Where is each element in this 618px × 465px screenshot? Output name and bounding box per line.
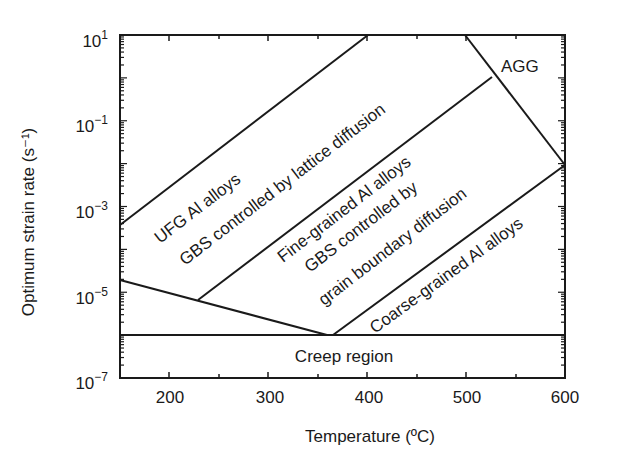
- ufg-upper-line: [120, 35, 368, 225]
- y-tick-label: 101: [82, 28, 108, 51]
- x-tick-label: 200: [156, 388, 184, 407]
- y-tick-labels: 101 10−1 10−3 10−5 10−7: [75, 28, 108, 393]
- y-axis-title: Optimum strain rate (s⁻¹): [19, 128, 38, 316]
- x-tick-label: 300: [256, 388, 284, 407]
- region-label-agg: AGG: [501, 57, 539, 76]
- region-labels: UFG Al alloys GBS controlled by lattice …: [151, 57, 539, 366]
- y-tick-label: 10−3: [75, 199, 108, 222]
- y-tick-label: 10−5: [75, 285, 108, 308]
- y-tick-label: 10−1: [75, 113, 108, 136]
- x-axis-title: Temperature (ºC): [305, 427, 435, 446]
- agg-boundary-line: [465, 35, 565, 165]
- x-tick-label: 500: [453, 388, 481, 407]
- x-tick-label: 600: [551, 388, 579, 407]
- region-label-coarse-grained: Coarse-grained Al alloys: [366, 214, 526, 338]
- x-tick-label: 400: [355, 388, 383, 407]
- region-label-creep: Creep region: [295, 347, 393, 366]
- x-tick-labels: 200 300 400 500 600: [156, 388, 579, 407]
- strain-rate-temperature-diagram: 101 10−1 10−3 10−5 10−7 200 300 400 500 …: [0, 0, 618, 465]
- lower-boundary-line: [120, 280, 327, 335]
- y-tick-label: 10−7: [75, 370, 108, 393]
